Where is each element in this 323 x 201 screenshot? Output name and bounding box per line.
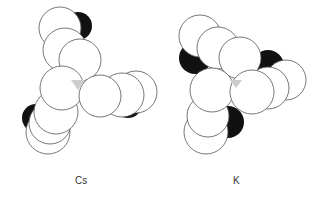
cs-label: Cs [75, 175, 87, 186]
atom-sphere [79, 75, 121, 117]
k-label: K [233, 175, 240, 186]
atom-sphere [190, 68, 234, 112]
k-space-filling-model [179, 15, 306, 154]
molecular-models-figure [0, 0, 323, 201]
atom-sphere [230, 70, 274, 114]
cs-space-filling-model [22, 7, 157, 154]
